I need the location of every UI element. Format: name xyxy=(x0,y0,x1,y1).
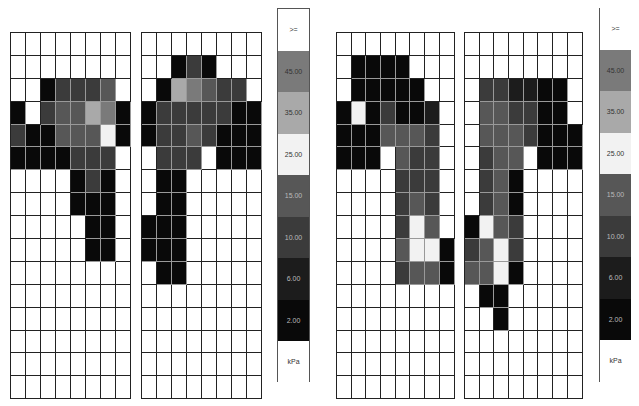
sensor-cell xyxy=(538,56,553,79)
sensor-cell xyxy=(465,79,480,102)
sensor-cell xyxy=(553,102,568,125)
sensor-cell xyxy=(381,79,396,102)
sensor-cell xyxy=(494,170,509,193)
sensor-cell xyxy=(337,102,352,125)
sensor-cell xyxy=(440,102,455,125)
sensor-cell xyxy=(381,170,396,193)
sensor-cell xyxy=(440,56,455,79)
sensor-cell xyxy=(396,193,411,216)
sensor-cell xyxy=(465,331,480,354)
sensor-cell xyxy=(553,147,568,170)
sensor-cell xyxy=(465,285,480,308)
sensor-cell xyxy=(509,308,524,331)
sensor-cell xyxy=(337,239,352,262)
sensor-cell xyxy=(425,33,440,56)
sensor-cell xyxy=(553,125,568,148)
sensor-cell xyxy=(425,308,440,331)
sensor-cell xyxy=(352,125,367,148)
sensor-cell xyxy=(494,331,509,354)
sensor-cell xyxy=(480,285,495,308)
sensor-cell xyxy=(465,353,480,376)
sensor-cell xyxy=(465,216,480,239)
sensor-cell xyxy=(410,147,425,170)
sensor-cell xyxy=(366,56,381,79)
sensor-cell xyxy=(425,147,440,170)
sensor-cell xyxy=(538,308,553,331)
foot-grid-right xyxy=(464,32,583,399)
sensor-cell xyxy=(509,216,524,239)
sensor-cell xyxy=(337,376,352,399)
sensor-cell xyxy=(440,308,455,331)
sensor-cell xyxy=(410,308,425,331)
sensor-cell xyxy=(480,33,495,56)
sensor-cell xyxy=(465,376,480,399)
sensor-cell xyxy=(366,33,381,56)
sensor-cell xyxy=(352,239,367,262)
sensor-cell xyxy=(440,285,455,308)
legend-band: 10.00 xyxy=(600,216,631,258)
sensor-cell xyxy=(480,262,495,285)
legend-band: kPa xyxy=(600,340,631,382)
sensor-cell xyxy=(396,308,411,331)
sensor-cell xyxy=(396,102,411,125)
sensor-cell xyxy=(396,353,411,376)
sensor-cell xyxy=(366,147,381,170)
sensor-cell xyxy=(410,262,425,285)
sensor-cell xyxy=(425,125,440,148)
sensor-cell xyxy=(538,331,553,354)
sensor-cell xyxy=(465,239,480,262)
sensor-cell xyxy=(538,239,553,262)
sensor-cell xyxy=(440,193,455,216)
sensor-cell xyxy=(410,376,425,399)
sensor-cell xyxy=(381,376,396,399)
sensor-cell xyxy=(524,33,539,56)
sensor-cell xyxy=(366,102,381,125)
sensor-cell xyxy=(352,147,367,170)
sensor-cell xyxy=(480,147,495,170)
sensor-cell xyxy=(553,239,568,262)
sensor-cell xyxy=(410,79,425,102)
sensor-cell xyxy=(480,56,495,79)
sensor-cell xyxy=(352,376,367,399)
sensor-cell xyxy=(553,331,568,354)
sensor-cell xyxy=(440,331,455,354)
sensor-cell xyxy=(509,353,524,376)
sensor-cell xyxy=(465,308,480,331)
legend-band-label: 15.00 xyxy=(607,191,625,198)
legend-band: 25.00 xyxy=(600,133,631,175)
sensor-cell xyxy=(480,125,495,148)
legend-band: >= xyxy=(600,8,631,50)
sensor-cell xyxy=(538,33,553,56)
sensor-cell xyxy=(494,308,509,331)
sensor-cell xyxy=(494,262,509,285)
sensor-cell xyxy=(553,193,568,216)
sensor-cell xyxy=(465,33,480,56)
sensor-cell xyxy=(410,125,425,148)
sensor-cell xyxy=(425,170,440,193)
sensor-cell xyxy=(410,193,425,216)
sensor-cell xyxy=(410,102,425,125)
sensor-cell xyxy=(538,353,553,376)
sensor-cell xyxy=(524,102,539,125)
sensor-cell xyxy=(381,308,396,331)
sensor-cell xyxy=(494,56,509,79)
sensor-cell xyxy=(381,353,396,376)
sensor-cell xyxy=(524,170,539,193)
sensor-cell xyxy=(524,193,539,216)
sensor-cell xyxy=(480,102,495,125)
sensor-cell xyxy=(480,216,495,239)
sensor-cell xyxy=(366,285,381,308)
sensor-cell xyxy=(366,125,381,148)
sensor-cell xyxy=(538,193,553,216)
sensor-cell xyxy=(366,376,381,399)
sensor-cell xyxy=(337,285,352,308)
sensor-cell xyxy=(440,33,455,56)
sensor-cell xyxy=(509,239,524,262)
sensor-cell xyxy=(440,216,455,239)
sensor-cell xyxy=(381,193,396,216)
sensor-cell xyxy=(352,262,367,285)
sensor-cell xyxy=(381,33,396,56)
sensor-cell xyxy=(337,147,352,170)
sensor-cell xyxy=(553,33,568,56)
sensor-cell xyxy=(381,125,396,148)
